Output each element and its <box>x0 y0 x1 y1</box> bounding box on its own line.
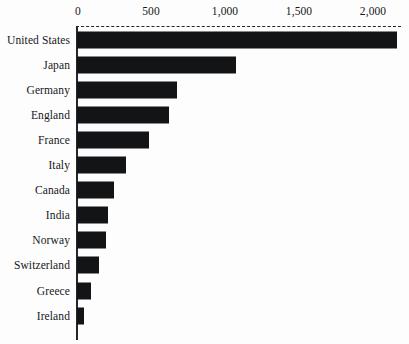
category-label: Greece <box>37 285 70 297</box>
bar <box>77 207 108 224</box>
plot-area: United States Japan Germany England Fran… <box>0 27 409 344</box>
bar <box>77 81 177 98</box>
bar-row: Switzerland <box>0 253 409 278</box>
category-label: India <box>46 209 70 221</box>
category-label: Canada <box>35 184 70 196</box>
x-tick-label: 1,000 <box>212 5 238 17</box>
bar-row: England <box>0 102 409 127</box>
bar-row: India <box>0 203 409 228</box>
bar-row: Norway <box>0 228 409 253</box>
category-label: Ireland <box>37 310 70 322</box>
bar <box>77 157 126 174</box>
bar-row: Japan <box>0 52 409 77</box>
category-label: United States <box>7 34 70 46</box>
category-label: Germany <box>27 84 71 96</box>
bar <box>77 182 114 199</box>
bar <box>77 257 99 274</box>
category-label: Norway <box>32 234 70 246</box>
bar <box>77 106 169 123</box>
horizontal-bar-chart: 0 500 1,000 1,500 2,000 United States Ja… <box>0 0 409 344</box>
bar-row: Germany <box>0 77 409 102</box>
x-axis-tick-labels: 0 500 1,000 1,500 2,000 <box>0 0 409 26</box>
x-tick-label: 2,000 <box>360 5 386 17</box>
x-tick-label: 500 <box>142 5 160 17</box>
bar-row: United States <box>0 27 409 52</box>
category-label: England <box>31 109 70 121</box>
bar <box>77 56 236 73</box>
bar <box>77 232 106 249</box>
category-label: Switzerland <box>14 259 70 271</box>
bar-row: Ireland <box>0 303 409 328</box>
x-tick-label: 1,500 <box>286 5 312 17</box>
bar <box>77 307 84 324</box>
category-label: Italy <box>48 159 70 171</box>
bar-row: France <box>0 127 409 152</box>
bar <box>77 131 149 148</box>
bar-row: Italy <box>0 153 409 178</box>
category-label: France <box>38 134 70 146</box>
bar <box>77 282 91 299</box>
bar-row: Canada <box>0 178 409 203</box>
bar-row: Greece <box>0 278 409 303</box>
category-label: Japan <box>43 59 70 71</box>
x-tick-label: 0 <box>75 5 81 17</box>
bar <box>77 31 397 48</box>
